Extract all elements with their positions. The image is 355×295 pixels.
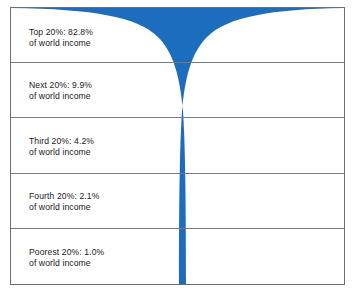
band-label-third-20-line1: Third 20%: 4.2% (29, 136, 94, 146)
band-divider-1 (11, 62, 344, 63)
band-label-next-20: Next 20%: 9.9% of world income (29, 80, 92, 103)
band-label-poorest-20-line2: of world income (29, 258, 104, 269)
band-label-top-20: Top 20%: 82.8% of world income (29, 27, 93, 50)
income-distribution-chart: Top 20%: 82.8% of world income Next 20%:… (0, 0, 355, 295)
band-label-top-20-line1: Top 20%: 82.8% (29, 27, 93, 37)
band-label-poorest-20: Poorest 20%: 1.0% of world income (29, 247, 104, 270)
band-label-third-20-line2: of world income (29, 147, 94, 158)
band-label-top-20-line2: of world income (29, 38, 93, 49)
band-label-fourth-20: Fourth 20%: 2.1% of world income (29, 191, 99, 214)
band-label-third-20: Third 20%: 4.2% of world income (29, 136, 94, 159)
band-label-fourth-20-line1: Fourth 20%: 2.1% (29, 191, 99, 201)
band-divider-3 (11, 173, 344, 174)
band-divider-4 (11, 228, 344, 229)
band-divider-2 (11, 117, 344, 118)
band-label-next-20-line1: Next 20%: 9.9% (29, 80, 92, 90)
band-label-next-20-line2: of world income (29, 91, 92, 102)
band-label-poorest-20-line1: Poorest 20%: 1.0% (29, 247, 104, 257)
band-label-fourth-20-line2: of world income (29, 202, 99, 213)
